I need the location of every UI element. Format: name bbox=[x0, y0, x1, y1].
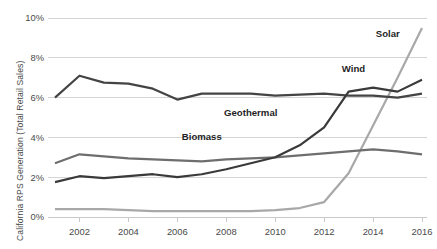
x-tick-label: 2004 bbox=[118, 226, 139, 237]
y-tick-label: 8% bbox=[30, 52, 44, 63]
y-tick-label: 0% bbox=[30, 211, 44, 222]
series-annotation-group: GeothermalBiomassWindSolar bbox=[182, 28, 400, 142]
y-tick-label: 4% bbox=[30, 132, 44, 143]
x-tick-label: 2016 bbox=[412, 226, 433, 237]
line-chart-plot: 0%2%4%6%8%10% 20022004200620082010201220… bbox=[0, 0, 437, 249]
y-tick-label: 2% bbox=[30, 172, 44, 183]
series-label-biomass: Biomass bbox=[182, 131, 222, 142]
series-line-biomass bbox=[55, 149, 422, 163]
series-line-solar bbox=[55, 28, 422, 211]
x-tick-label: 2012 bbox=[314, 226, 335, 237]
chart-container: California RPS Generation (Total Retail … bbox=[0, 0, 437, 249]
x-tick-label: 2006 bbox=[167, 226, 188, 237]
x-tick-label: 2014 bbox=[363, 226, 384, 237]
series-label-wind: Wind bbox=[342, 63, 365, 74]
x-tickmark-group bbox=[79, 217, 422, 222]
series-label-geothermal: Geothermal bbox=[224, 107, 277, 118]
y-tick-label: 6% bbox=[30, 92, 44, 103]
x-tick-label: 2002 bbox=[69, 226, 90, 237]
x-tick-label: 2010 bbox=[265, 226, 286, 237]
x-tick-label: 2008 bbox=[216, 226, 237, 237]
y-tick-label-group: 0%2%4%6%8%10% bbox=[25, 12, 44, 222]
y-tick-label: 10% bbox=[25, 12, 44, 23]
data-series-group bbox=[55, 28, 422, 211]
series-label-solar: Solar bbox=[376, 28, 400, 39]
x-tick-label-group: 20022004200620082010201220142016 bbox=[69, 226, 432, 237]
